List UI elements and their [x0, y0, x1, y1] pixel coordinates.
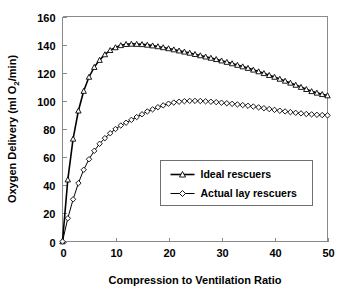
diamond-marker	[298, 111, 303, 116]
diamond-marker	[245, 103, 250, 108]
diamond-marker	[282, 109, 287, 114]
diamond-marker	[267, 106, 272, 111]
diamond-marker	[81, 167, 86, 172]
y-tick-label: 20	[43, 208, 55, 220]
diamond-marker	[309, 112, 314, 117]
diamond-marker	[235, 102, 240, 107]
diamond-marker	[76, 180, 81, 185]
diamond-marker	[198, 98, 203, 103]
triangle-marker	[65, 177, 70, 182]
diamond-marker	[314, 112, 319, 117]
diamond-marker	[203, 99, 208, 104]
diamond-marker	[86, 157, 91, 162]
series-line-ideal	[63, 44, 328, 242]
axis-lines	[63, 17, 328, 242]
triangle-marker	[81, 88, 86, 93]
diamond-marker	[150, 107, 155, 112]
diamond-marker	[70, 197, 75, 202]
diamond-marker	[145, 109, 150, 114]
diamond-marker	[320, 112, 325, 117]
x-tick-label: 10	[110, 247, 122, 259]
x-tick-label: 30	[216, 247, 228, 259]
diamond-marker	[256, 105, 261, 110]
legend-label: Actual lay rescuers	[201, 187, 297, 199]
diamond-marker	[272, 107, 277, 112]
diamond-marker	[166, 101, 171, 106]
diamond-marker	[251, 104, 256, 109]
x-axis-title: Compression to Ventilation Ratio	[109, 274, 282, 286]
diamond-marker	[134, 114, 139, 119]
legend-label: Ideal rescuers	[201, 168, 272, 180]
diamond-marker	[277, 108, 282, 113]
diamond-marker	[161, 103, 166, 108]
diamond-marker	[214, 99, 219, 104]
chart-figure: 02040608010012014016001020304050Compress…	[0, 0, 350, 292]
diamond-marker	[182, 98, 187, 103]
oxygen-delivery-line-chart: 02040608010012014016001020304050Compress…	[0, 0, 350, 292]
diamond-marker	[65, 216, 70, 221]
diamond-marker	[261, 105, 266, 110]
diamond-marker	[123, 120, 128, 125]
y-tick-label: 0	[49, 237, 55, 249]
triangle-marker	[70, 136, 75, 141]
diamond-marker	[176, 99, 181, 104]
diamond-marker	[118, 123, 123, 128]
diamond-marker	[171, 100, 176, 105]
y-tick-label: 40	[43, 180, 55, 192]
x-tick-label: 0	[60, 247, 66, 259]
diamond-marker	[304, 111, 309, 116]
y-tick-label: 60	[43, 152, 55, 164]
y-tick-label: 120	[37, 68, 55, 80]
y-tick-label: 80	[43, 124, 55, 136]
diamond-marker	[219, 100, 224, 105]
diamond-marker	[288, 109, 293, 114]
axes-frame	[63, 17, 328, 242]
diamond-marker	[187, 98, 192, 103]
diamond-marker	[229, 101, 234, 106]
diamond-marker	[155, 105, 160, 110]
diamond-marker	[139, 112, 144, 117]
y-tick-label: 100	[37, 96, 55, 108]
diamond-marker	[325, 113, 330, 118]
x-tick-label: 20	[163, 247, 175, 259]
diamond-marker	[208, 99, 213, 104]
x-tick-label: 50	[322, 247, 334, 259]
triangle-marker	[76, 108, 81, 113]
diamond-marker	[192, 98, 197, 103]
diamond-marker	[240, 102, 245, 107]
x-axis: 01020304050	[60, 238, 334, 259]
diamond-marker	[293, 110, 298, 115]
legend: Ideal rescuersActual lay rescuers	[161, 161, 313, 206]
y-axis-title: Oxygen Delivery (ml O2/min)	[6, 55, 21, 203]
y-tick-label: 140	[37, 40, 55, 52]
diamond-marker	[224, 101, 229, 106]
x-tick-label: 40	[269, 247, 281, 259]
y-tick-label: 160	[37, 12, 55, 24]
diamond-marker	[129, 117, 134, 122]
